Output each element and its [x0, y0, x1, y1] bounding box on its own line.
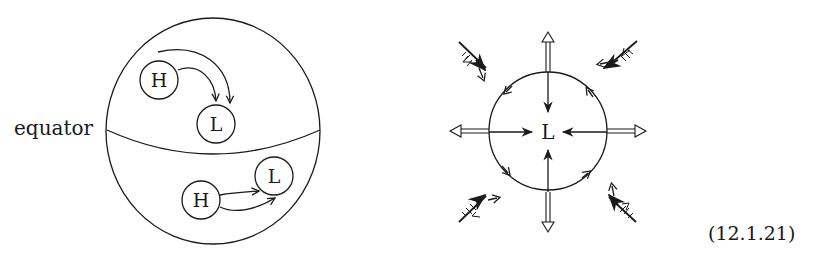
low-label-south: L — [268, 165, 281, 187]
outward-double-arrow-bottom — [542, 192, 554, 232]
figure-canvas: H L H L equator — [0, 0, 816, 271]
equation-number: (12.1.21) — [708, 222, 795, 244]
force-cluster-upper-left — [459, 42, 486, 78]
outward-double-arrow-right — [607, 125, 646, 137]
force-cluster-lower-left — [459, 195, 497, 222]
flow-arrow-north-outer — [158, 50, 230, 103]
high-label-south: H — [193, 189, 210, 211]
force-cluster-upper-right — [600, 41, 637, 68]
high-label-north: H — [151, 69, 168, 91]
force-cluster-lower-right — [609, 186, 636, 222]
low-pressure-center-label: L — [541, 120, 554, 144]
flow-arrow-south-upper — [220, 191, 259, 195]
outward-double-arrow-left — [450, 125, 489, 137]
flow-arrow-north-inner — [178, 68, 216, 101]
equator-label: equator — [14, 116, 94, 140]
flow-arrow-south-lower — [220, 198, 275, 210]
low-label-north: L — [210, 113, 223, 135]
outward-double-arrow-top — [542, 32, 554, 72]
